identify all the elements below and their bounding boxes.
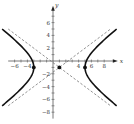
point-center [58, 66, 62, 70]
y-tick-label: −8 [42, 109, 51, 115]
y-tick-label: 6 [47, 20, 51, 26]
hyperbola-chart: x y −6−4468642−2−4−6−8 [0, 0, 134, 124]
y-tick-label: 4 [47, 32, 51, 38]
x-tick-label: 6 [90, 63, 94, 69]
x-axis-label: x [120, 57, 124, 64]
x-tick-label: 4 [77, 63, 81, 69]
y-tick-label: 2 [47, 45, 51, 51]
point-vertex-right [83, 66, 87, 70]
x-axis-arrow [113, 59, 118, 63]
x-tick-label: 8 [102, 63, 106, 69]
y-tick-label: −6 [42, 96, 51, 102]
ticks: −6−4468642−2−4−6−8 [11, 16, 107, 115]
x-tick-label: −6 [11, 63, 20, 69]
y-axis-label: y [54, 1, 59, 9]
y-tick-label: −2 [42, 71, 50, 77]
point-vertex-left [32, 66, 36, 70]
x-tick-label: −4 [23, 63, 32, 69]
y-tick-label: −4 [42, 84, 51, 90]
